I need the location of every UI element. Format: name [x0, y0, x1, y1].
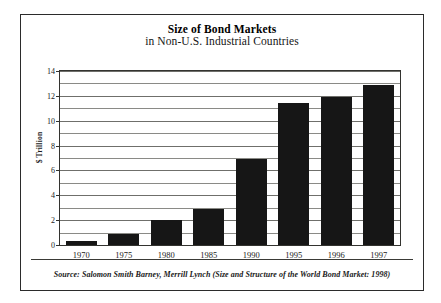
title-block: Size of Bond Markets in Non-U.S. Industr… — [21, 23, 423, 48]
y-axis-tick-label: 2 — [51, 216, 55, 225]
plot-area: 02468101214 1970197519801985199019951996… — [59, 70, 401, 246]
figure-frame: Size of Bond Markets in Non-U.S. Industr… — [20, 14, 424, 291]
bar — [278, 103, 309, 245]
chart-subtitle: in Non-U.S. Industrial Countries — [21, 35, 423, 47]
y-axis-tick-label: 4 — [51, 191, 55, 200]
y-axis-tick-label: 12 — [47, 91, 55, 100]
bar — [108, 234, 139, 245]
y-axis-tick-label: 14 — [47, 67, 55, 76]
source-divider — [31, 259, 413, 260]
y-axis-title: $ Trillion — [35, 108, 44, 188]
bar — [193, 209, 224, 245]
y-axis-tick-label: 8 — [51, 141, 55, 150]
y-axis-tick-label: 6 — [51, 166, 55, 175]
bar — [151, 220, 182, 245]
chart-title: Size of Bond Markets — [21, 23, 423, 35]
bar — [363, 85, 394, 245]
y-axis-tick — [56, 245, 60, 246]
bar — [236, 159, 267, 245]
bar-series: 19701975198019851990199519961997 — [60, 71, 400, 245]
bar — [321, 97, 352, 245]
y-axis-tick-label: 10 — [47, 116, 55, 125]
y-axis-tick-label: 0 — [51, 241, 55, 250]
bar — [66, 241, 97, 245]
source-note: Source: Salomon Smith Barney, Merrill Ly… — [21, 270, 423, 279]
